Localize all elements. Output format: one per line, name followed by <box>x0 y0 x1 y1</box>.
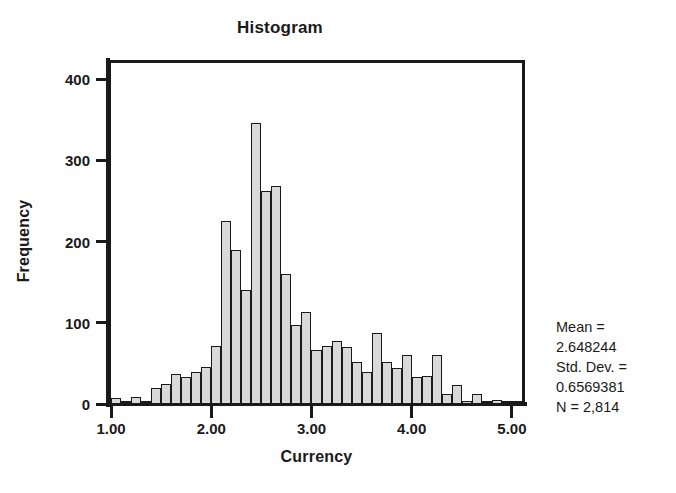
histogram-bar <box>402 355 412 404</box>
x-axis-tick-mark <box>410 405 413 418</box>
y-axis-tick-mark <box>96 321 108 324</box>
histogram-bar <box>382 362 392 404</box>
histogram-bar <box>512 402 522 405</box>
histogram-bars <box>111 63 522 404</box>
histogram-chart-page: Histogram Frequency 0100200300400 1.002.… <box>0 0 676 493</box>
histogram-bar <box>301 312 311 404</box>
histogram-bar <box>372 333 382 404</box>
histogram-bar <box>332 341 342 404</box>
y-axis-tick-mark <box>96 403 108 406</box>
x-axis-tick-label: 2.00 <box>176 420 246 437</box>
x-axis-tick-label: 5.00 <box>477 420 547 437</box>
histogram-bar <box>311 350 321 404</box>
histogram-bar <box>121 402 131 405</box>
histogram-bar <box>442 394 452 404</box>
histogram-bar <box>452 385 462 404</box>
y-axis-tick-label: 300 <box>32 152 90 169</box>
histogram-bar <box>281 274 291 404</box>
histogram-bar <box>291 325 301 404</box>
histogram-bar <box>261 191 271 404</box>
histogram-bar <box>472 394 482 404</box>
histogram-bar <box>241 290 251 404</box>
x-axis-tick-label: 4.00 <box>377 420 447 437</box>
x-axis-tick-mark <box>110 405 113 418</box>
histogram-bar <box>362 372 372 404</box>
histogram-bar <box>422 376 432 404</box>
y-axis-tick-label: 0 <box>32 396 90 413</box>
histogram-bar <box>231 250 241 404</box>
histogram-bar <box>352 362 362 404</box>
histogram-bar <box>392 368 402 404</box>
histogram-bar <box>412 377 422 404</box>
histogram-bar <box>191 372 201 404</box>
histogram-bar <box>141 402 151 405</box>
histogram-bar <box>181 377 191 404</box>
histogram-bar <box>171 374 181 404</box>
y-axis-tick-mark <box>96 78 108 81</box>
x-axis-tick-mark <box>310 405 313 418</box>
histogram-bar <box>342 347 352 404</box>
histogram-bar <box>492 400 502 404</box>
histogram-bar <box>322 346 332 404</box>
x-axis-tick-label: 1.00 <box>76 420 146 437</box>
histogram-bar <box>482 402 492 405</box>
histogram-bar <box>462 401 472 404</box>
histogram-bar <box>131 397 141 404</box>
histogram-bar <box>251 123 261 404</box>
stat-sd-label: Std. Dev. = <box>556 357 672 377</box>
stat-sd-value: 0.6569381 <box>556 377 672 397</box>
x-axis-tick-label: 3.00 <box>276 420 346 437</box>
histogram-bar <box>502 402 512 405</box>
statistics-annotation: Mean = 2.648244 Std. Dev. = 0.6569381 N … <box>556 317 672 417</box>
stat-mean-label: Mean = <box>556 317 672 337</box>
histogram-bar <box>211 346 221 404</box>
histogram-bar <box>271 186 281 404</box>
histogram-bar <box>111 398 121 404</box>
y-axis-tick-mark <box>96 240 108 243</box>
histogram-bar <box>151 388 161 404</box>
y-axis-tick-mark <box>96 159 108 162</box>
histogram-bar <box>432 355 442 404</box>
histogram-bar <box>161 384 171 404</box>
histogram-bar <box>221 221 231 404</box>
x-axis-tick-mark <box>210 405 213 418</box>
histogram-bar <box>201 367 211 404</box>
x-axis-tick-mark <box>510 405 513 418</box>
stat-mean-value: 2.648244 <box>556 337 672 357</box>
x-axis-title: Currency <box>108 448 525 466</box>
y-axis-tick-label: 100 <box>32 314 90 331</box>
y-axis-tick-label: 400 <box>32 71 90 88</box>
y-axis-tick-label: 200 <box>32 233 90 250</box>
stat-n-value: N = 2,814 <box>556 397 672 417</box>
